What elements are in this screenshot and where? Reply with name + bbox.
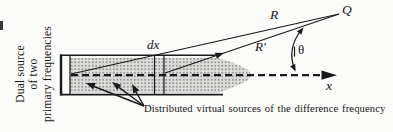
- virtual-source-arrowhead-2-icon: [112, 82, 121, 90]
- theta-arc-upper-arrowhead-icon: [297, 28, 304, 35]
- virtual-source-arrowhead-3-icon: [132, 84, 139, 94]
- virtual-source-arrowhead-1-icon: [86, 83, 96, 90]
- parametric-array-diagram: Dual source of two primary frequencies: [0, 0, 393, 132]
- ray-R-prime-label: R': [255, 39, 266, 55]
- theta-arc-lower-arrowhead-icon: [290, 64, 295, 72]
- virtual-source-leader-2: [119, 87, 144, 106]
- virtual-sources-caption: Distributed virtual sources of the diffe…: [144, 103, 385, 114]
- x-axis-label: x: [326, 78, 332, 94]
- ray-R-label: R: [270, 7, 278, 23]
- dx-slab-label: dx: [147, 37, 159, 53]
- theta-angle-label: θ: [298, 42, 304, 58]
- field-point-Q-label: Q: [342, 2, 352, 18]
- ray-R-prime-line: [165, 14, 339, 73]
- ray-R-prime-arrowhead-icon: [215, 53, 224, 59]
